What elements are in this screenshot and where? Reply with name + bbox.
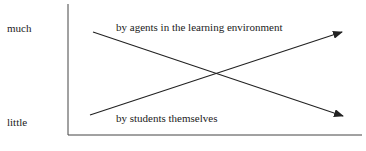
agents-line-label: by agents in the learning environment xyxy=(116,21,282,33)
y-label-much: much xyxy=(7,22,31,34)
students-line-label: by students themselves xyxy=(116,112,217,124)
y-label-little: little xyxy=(7,116,27,128)
